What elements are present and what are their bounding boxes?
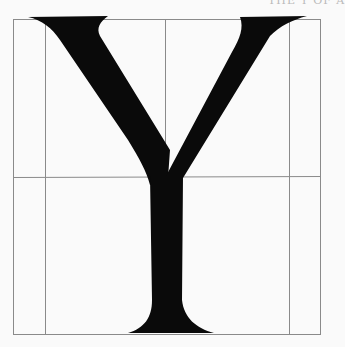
letter-y-glyph: [28, 16, 307, 333]
